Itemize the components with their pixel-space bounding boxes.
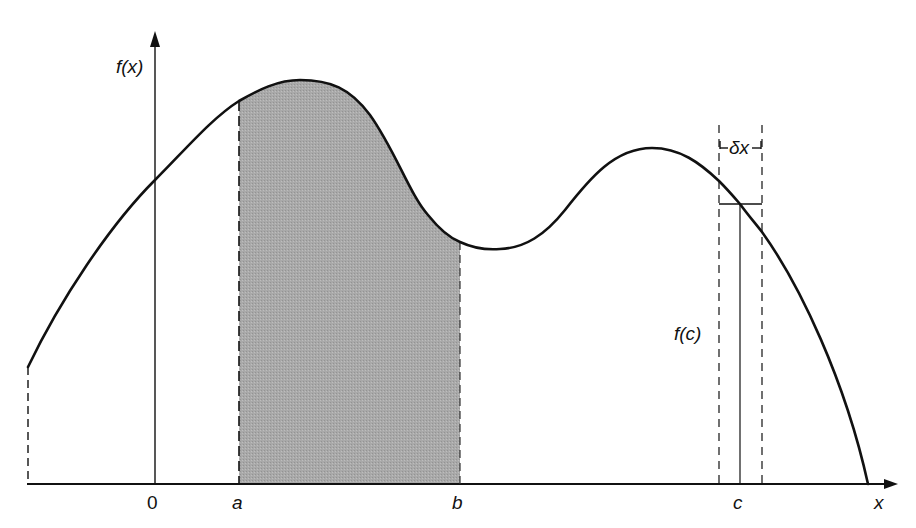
delta-x-label: δx [729, 137, 751, 158]
b-label: b [452, 492, 463, 513]
origin-label: 0 [147, 492, 158, 513]
y-axis-arrow-icon [150, 31, 160, 47]
a-label: a [232, 492, 243, 513]
c-label: c [733, 492, 743, 513]
y-axis-label: f(x) [116, 56, 143, 77]
x-axis-label: x [873, 492, 885, 513]
x-axis-arrow-icon [884, 479, 898, 489]
f-c-label: f(c) [674, 323, 701, 344]
integral-diagram: f(x) x 0 a b c δx f(c) [0, 0, 916, 528]
shaded-area-a-to-b [239, 80, 460, 484]
